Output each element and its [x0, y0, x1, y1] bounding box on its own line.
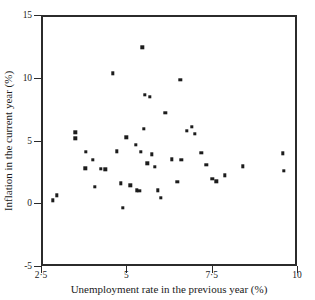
- data-point: [163, 111, 166, 114]
- data-point: [104, 168, 107, 171]
- data-point: [139, 150, 142, 153]
- data-point: [125, 136, 128, 139]
- x-axis-tick-label: 10: [274, 270, 315, 281]
- data-point: [142, 127, 145, 130]
- data-point: [148, 95, 151, 98]
- data-point: [115, 150, 118, 153]
- data-point: [211, 177, 214, 180]
- y-axis-tick: [34, 266, 41, 267]
- y-axis-title-wrap: Inflation in the current year (%): [0, 15, 16, 266]
- y-axis-tick: [34, 78, 41, 79]
- data-point: [180, 158, 183, 161]
- data-point: [74, 136, 77, 139]
- data-point: [156, 188, 159, 191]
- data-point: [185, 129, 188, 132]
- data-point: [93, 185, 96, 188]
- data-point: [193, 132, 196, 135]
- data-point: [111, 72, 114, 75]
- data-point: [215, 180, 218, 183]
- data-point: [145, 162, 148, 165]
- data-point: [150, 153, 153, 156]
- data-point: [175, 180, 178, 183]
- data-point: [223, 173, 226, 176]
- x-axis-tick-label: 5: [103, 270, 149, 281]
- data-point: [200, 151, 203, 154]
- data-point: [91, 158, 94, 161]
- y-axis-tick: [34, 203, 41, 204]
- data-point: [119, 182, 122, 185]
- data-point: [84, 167, 87, 170]
- data-point: [129, 183, 132, 186]
- data-point: [143, 93, 146, 96]
- data-point: [138, 189, 141, 192]
- data-point: [134, 143, 137, 146]
- x-axis-title: Unemployment rate in the previous year (…: [41, 283, 297, 296]
- x-axis-tick-label: 7·5: [189, 270, 235, 281]
- y-axis-tick: [34, 15, 41, 16]
- data-point: [190, 125, 193, 128]
- data-point: [153, 165, 156, 168]
- y-axis-tick: [34, 141, 41, 142]
- data-point: [121, 206, 124, 209]
- data-point: [141, 45, 144, 48]
- data-point: [204, 163, 207, 166]
- data-point: [74, 131, 77, 134]
- data-point: [159, 196, 162, 199]
- data-point: [51, 199, 54, 202]
- data-points-layer: [43, 17, 295, 264]
- data-point: [170, 158, 173, 161]
- scatter-chart: -5051015 2·557·510 Inflation in the curr…: [0, 0, 315, 300]
- x-axis-tick-label: 2·5: [18, 270, 64, 281]
- data-point: [179, 78, 182, 81]
- data-point: [241, 165, 244, 168]
- data-point: [282, 169, 285, 172]
- data-point: [99, 167, 102, 170]
- data-point: [281, 151, 284, 154]
- y-axis-title: Inflation in the current year (%): [2, 70, 15, 210]
- data-point: [84, 150, 87, 153]
- plot-area: [41, 15, 297, 266]
- data-point: [55, 194, 58, 197]
